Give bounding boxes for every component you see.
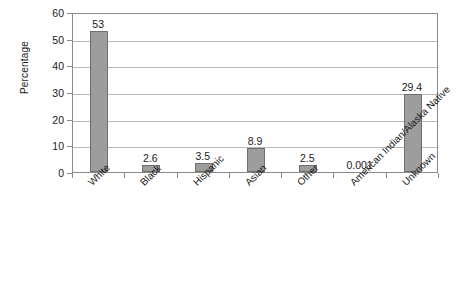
bar-value-label: 29.4 <box>382 82 442 93</box>
gridline <box>73 121 437 122</box>
y-axis-tick-label: 40 <box>36 61 64 71</box>
bar-value-label: 53 <box>68 19 128 30</box>
x-axis-tick-mark <box>386 173 387 178</box>
gridline <box>73 67 437 68</box>
gridline <box>73 41 437 42</box>
y-axis-tick-label: 0 <box>36 168 64 178</box>
bar-value-label: 2.6 <box>120 153 180 164</box>
x-axis-tick-mark <box>438 173 439 178</box>
bar-chart: Percentage 0102030405060 532.63.58.92.50… <box>0 0 459 292</box>
x-axis-tick-mark <box>72 173 73 178</box>
x-axis-tick-mark <box>177 173 178 178</box>
x-axis-tick-mark <box>281 173 282 178</box>
y-axis-tick-label: 30 <box>36 88 64 98</box>
bar <box>90 31 108 172</box>
bar-value-label: 2.5 <box>277 153 337 164</box>
y-axis-title: Percentage <box>19 8 30 128</box>
bar-value-label: 8.9 <box>225 136 285 147</box>
y-axis-tick-label: 50 <box>36 35 64 45</box>
x-axis-tick-mark <box>124 173 125 178</box>
y-axis-tick-label: 10 <box>36 141 64 151</box>
x-axis-tick-mark <box>333 173 334 178</box>
gridline <box>73 94 437 95</box>
y-axis-tick-label: 60 <box>36 8 64 18</box>
x-axis-tick-mark <box>229 173 230 178</box>
y-axis-tick-label: 20 <box>36 115 64 125</box>
